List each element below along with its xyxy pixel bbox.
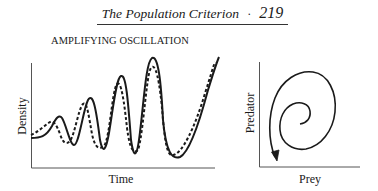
predator-prey-spiral xyxy=(270,72,336,157)
right-x-axis-label: Prey xyxy=(299,172,321,186)
right-panel-phase-plane: Predator Prey xyxy=(243,62,360,186)
left-panel-time-series: Density Time xyxy=(15,57,219,186)
right-y-axis-label: Predator xyxy=(243,93,257,134)
spiral-arrowhead-icon xyxy=(272,150,280,161)
left-x-axis-label: Time xyxy=(109,172,134,186)
left-y-axis-label: Density xyxy=(15,97,29,134)
figure-canvas: Density Time Predator Prey xyxy=(0,0,378,191)
